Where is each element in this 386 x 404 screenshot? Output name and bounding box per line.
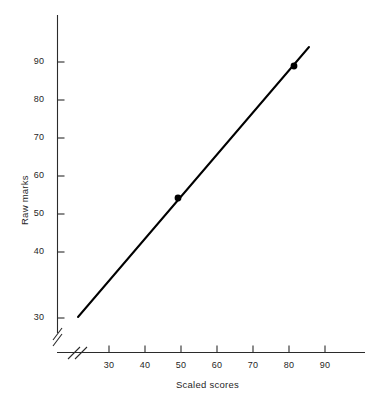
- x-tick-label: 50: [170, 360, 192, 370]
- data-point: [175, 195, 182, 202]
- x-tick-label: 70: [242, 360, 264, 370]
- x-axis-title: Scaled scores: [176, 379, 239, 390]
- conversion-line: [78, 47, 309, 317]
- y-tick-label: 30: [28, 312, 50, 322]
- chart-plot-area: [0, 0, 386, 404]
- y-tick-label: 40: [28, 246, 50, 256]
- y-tick-label: 90: [28, 56, 50, 66]
- x-tick-label: 40: [134, 360, 156, 370]
- data-point: [291, 63, 298, 70]
- y-tick-label: 60: [28, 170, 50, 180]
- y-tick-label: 70: [28, 132, 50, 142]
- x-axis-ticks: [109, 346, 325, 353]
- y-tick-label: 50: [28, 208, 50, 218]
- y-tick-label: 80: [28, 94, 50, 104]
- y-axis-title: Raw marks: [19, 175, 30, 225]
- y-axis-ticks: [58, 62, 65, 318]
- x-tick-label: 30: [98, 360, 120, 370]
- x-tick-label: 60: [206, 360, 228, 370]
- x-tick-label: 80: [278, 360, 300, 370]
- chart-figure: 90 80 70 60 50 40 30 30 40 50 60 70 80 9…: [0, 0, 386, 404]
- x-tick-label: 90: [314, 360, 336, 370]
